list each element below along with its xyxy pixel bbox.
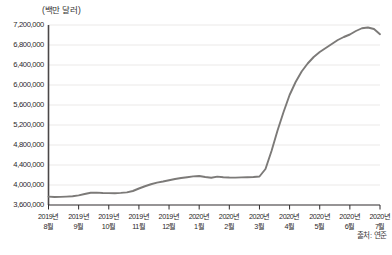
chart-container: (백만 달러) 7,200,0006,800,0006,400,0006,000… (0, 0, 392, 255)
x-tick-year: 2019년 (33, 212, 65, 222)
x-axis-tick-label: 2019년10월 (93, 212, 125, 231)
x-axis-ticks (49, 205, 381, 210)
x-axis-tick-label: 2019년12월 (153, 212, 185, 231)
x-tick-month: 1월 (183, 222, 215, 232)
x-tick-month: 2월 (213, 222, 245, 232)
x-tick-year: 2019년 (93, 212, 125, 222)
x-tick-month: 11월 (123, 222, 155, 232)
x-axis-tick-label: 2020년3월 (243, 212, 275, 231)
x-axis-tick-label: 2020년2월 (213, 212, 245, 231)
x-tick-month: 4월 (274, 222, 306, 232)
x-tick-month: 10월 (93, 222, 125, 232)
x-tick-month: 8월 (33, 222, 65, 232)
x-axis-tick-label: 2020년4월 (274, 212, 306, 231)
x-tick-month: 3월 (243, 222, 275, 232)
y-axis-tick-label: 4,000,000 (4, 180, 44, 189)
x-axis-tick-label: 2019년8월 (33, 212, 65, 231)
data-series-line (49, 28, 381, 198)
x-tick-year: 2020년 (183, 212, 215, 222)
x-tick-month: 12월 (153, 222, 185, 232)
source-note: 출처: 연준 (357, 229, 387, 240)
y-axis-tick-label: 6,400,000 (4, 60, 44, 69)
y-axis-tick-label: 6,800,000 (4, 40, 44, 49)
x-axis-tick-label: 2020년1월 (183, 212, 215, 231)
x-tick-year: 2020년 (334, 212, 366, 222)
x-tick-year: 2019년 (63, 212, 95, 222)
y-axis-tick-label: 3,600,000 (4, 200, 44, 209)
y-axis-tick-label: 7,200,000 (4, 20, 44, 29)
x-tick-year: 2019년 (153, 212, 185, 222)
y-axis-tick-label: 4,800,000 (4, 140, 44, 149)
y-axis-tick-label: 4,400,000 (4, 160, 44, 169)
x-tick-year: 2019년 (123, 212, 155, 222)
x-tick-month: 5월 (304, 222, 336, 232)
x-axis-tick-label: 2020년5월 (304, 212, 336, 231)
x-tick-year: 2020년 (364, 212, 392, 222)
x-axis-tick-label: 2019년9월 (63, 212, 95, 231)
x-tick-year: 2020년 (243, 212, 275, 222)
gridlines (49, 25, 381, 185)
y-axis-tick-label: 5,600,000 (4, 100, 44, 109)
x-tick-year: 2020년 (274, 212, 306, 222)
y-axis-tick-label: 6,000,000 (4, 80, 44, 89)
x-tick-year: 2020년 (304, 212, 336, 222)
y-axis-tick-label: 5,200,000 (4, 120, 44, 129)
x-axis-tick-label: 2019년11월 (123, 212, 155, 231)
x-tick-month: 9월 (63, 222, 95, 232)
x-tick-year: 2020년 (213, 212, 245, 222)
